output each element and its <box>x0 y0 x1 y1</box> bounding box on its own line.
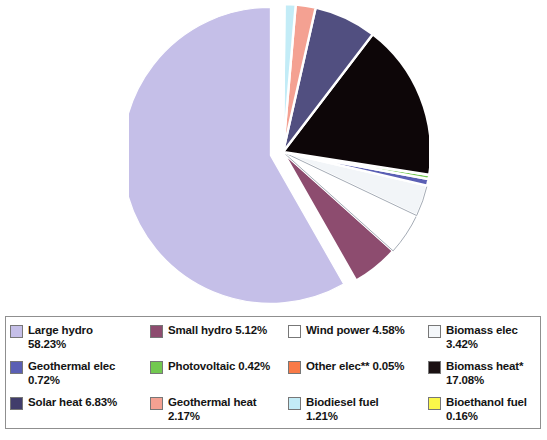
legend-swatch-icon-wind-power <box>288 325 301 338</box>
legend-item-biomass-elec[interactable]: Biomass elec 3.42% <box>428 321 538 357</box>
legend-label-biomass-elec: Biomass elec 3.42% <box>446 324 518 351</box>
legend-swatch-icon-solar-heat <box>10 397 23 410</box>
legend-swatch-icon-biomass-elec <box>428 325 441 338</box>
legend-swatch-icon-geothermal-elec <box>10 361 23 374</box>
legend-label-geothermal-elec: Geothermal elec 0.72% <box>28 360 115 387</box>
legend-label-wind-power: Wind power 4.58% <box>306 324 404 338</box>
pie-chart-area <box>0 0 547 308</box>
chart-legend: Large hydro 58.23% Small hydro 5.12% Win… <box>5 316 541 429</box>
legend-label-other-elec: Other elec** 0.05% <box>306 360 404 374</box>
legend-item-wind-power[interactable]: Wind power 4.58% <box>288 321 428 357</box>
legend-item-small-hydro[interactable]: Small hydro 5.12% <box>150 321 288 357</box>
legend-swatch-icon-bioethanol-fuel <box>428 397 441 410</box>
legend-label-bioethanol-fuel: Bioethanol fuel 0.16% <box>446 396 527 423</box>
legend-item-solar-heat[interactable]: Solar heat 6.83% <box>10 393 150 429</box>
legend-swatch-icon-geothermal-heat <box>150 397 163 410</box>
legend-label-large-hydro: Large hydro 58.23% <box>28 324 93 351</box>
legend-swatch-icon-biodiesel-fuel <box>288 397 301 410</box>
legend-item-geothermal-heat[interactable]: Geothermal heat 2.17% <box>150 393 288 429</box>
legend-swatch-icon-other-elec <box>288 361 301 374</box>
legend-swatch-icon-biomass-heat <box>428 361 441 374</box>
legend-swatch-icon-large-hydro <box>10 325 23 338</box>
legend-swatch-icon-photovoltaic <box>150 361 163 374</box>
legend-label-biodiesel-fuel: Biodiesel fuel 1.21% <box>306 396 379 423</box>
legend-item-large-hydro[interactable]: Large hydro 58.23% <box>10 321 150 357</box>
pie-chart-graphic <box>129 0 429 308</box>
legend-grid: Large hydro 58.23% Small hydro 5.12% Win… <box>10 321 538 429</box>
pie-slice-group <box>129 4 429 303</box>
legend-item-photovoltaic[interactable]: Photovoltaic 0.42% <box>150 357 288 393</box>
legend-item-bioethanol-fuel[interactable]: Bioethanol fuel 0.16% <box>428 393 538 429</box>
legend-label-geothermal-heat: Geothermal heat 2.17% <box>168 396 257 423</box>
legend-label-photovoltaic: Photovoltaic 0.42% <box>168 360 270 374</box>
legend-swatch-icon-small-hydro <box>150 325 163 338</box>
legend-item-other-elec[interactable]: Other elec** 0.05% <box>288 357 428 393</box>
legend-item-geothermal-elec[interactable]: Geothermal elec 0.72% <box>10 357 150 393</box>
legend-item-biodiesel-fuel[interactable]: Biodiesel fuel 1.21% <box>288 393 428 429</box>
pie-slice-bioethanol-fuel[interactable] <box>283 4 284 152</box>
legend-label-biomass-heat: Biomass heat* 17.08% <box>446 360 523 387</box>
legend-label-solar-heat: Solar heat 6.83% <box>28 396 117 410</box>
legend-item-biomass-heat[interactable]: Biomass heat* 17.08% <box>428 357 538 393</box>
legend-label-small-hydro: Small hydro 5.12% <box>168 324 267 338</box>
